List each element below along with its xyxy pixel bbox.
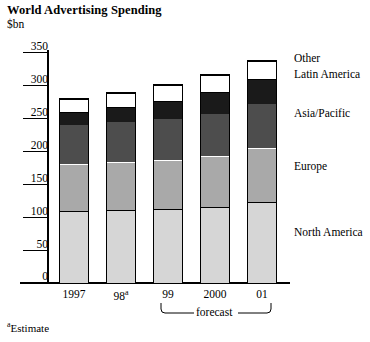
segment-latin-america xyxy=(60,112,88,125)
x-label-99: 99 xyxy=(162,288,174,300)
y-tick-200: 200 xyxy=(12,140,48,152)
y-tick-100: 100 xyxy=(12,206,48,218)
y-tick-50: 50 xyxy=(12,239,48,251)
y-tick-300: 300 xyxy=(12,74,48,86)
y-tick-label: 250 xyxy=(31,106,48,118)
legend-item-europe: Europe xyxy=(294,160,327,172)
y-tick-rule xyxy=(23,52,49,53)
footnote-text: Estimate xyxy=(11,322,50,334)
segment-latin-america xyxy=(201,92,229,114)
x-label-text: 1997 xyxy=(63,288,86,300)
plot-area xyxy=(47,50,290,284)
bar-99[interactable] xyxy=(153,84,183,284)
segment-asia-pacific xyxy=(154,119,182,160)
segment-latin-america xyxy=(154,101,182,119)
legend-item-latin-america: Latin America xyxy=(294,68,360,80)
y-tick-350: 350 xyxy=(12,41,48,53)
chart-subtitle: $bn xyxy=(7,18,24,30)
legend-item-other: Other xyxy=(294,52,320,64)
y-tick-rule xyxy=(23,282,49,283)
chart-title: World Advertising Spending xyxy=(7,3,162,18)
segment-asia-pacific xyxy=(107,122,135,162)
segment-latin-america xyxy=(248,79,276,104)
segment-other xyxy=(60,99,88,112)
x-label-01: 01 xyxy=(256,288,268,300)
y-tick-label: 300 xyxy=(31,73,48,85)
y-tick-label: 150 xyxy=(31,172,48,184)
legend-item-north-america: North America xyxy=(294,226,363,238)
y-tick-rule xyxy=(23,250,49,251)
segment-north-america xyxy=(248,202,276,283)
segment-asia-pacific xyxy=(248,104,276,148)
bar-1997[interactable] xyxy=(59,98,89,284)
footnote: aEstimate xyxy=(7,320,49,334)
x-label-2000: 2000 xyxy=(204,288,227,300)
segment-asia-pacific xyxy=(60,125,88,164)
segment-north-america xyxy=(107,210,135,283)
segment-latin-america xyxy=(107,107,135,122)
x-label-1997: 1997 xyxy=(63,288,86,300)
y-tick-label: 350 xyxy=(31,40,48,52)
segment-asia-pacific xyxy=(201,114,229,156)
segment-other xyxy=(107,93,135,107)
legend-item-asia-pacific: Asia/Pacific xyxy=(294,107,350,119)
y-tick-250: 250 xyxy=(12,107,48,119)
x-label-text: 01 xyxy=(256,288,268,300)
segment-other xyxy=(248,61,276,79)
y-tick-label: 100 xyxy=(31,205,48,217)
segment-europe xyxy=(60,164,88,211)
bar-98[interactable] xyxy=(106,92,136,284)
y-tick-rule xyxy=(23,118,49,119)
y-tick-150: 150 xyxy=(12,173,48,185)
segment-europe xyxy=(154,160,182,209)
y-tick-rule xyxy=(23,217,49,218)
bar-2000[interactable] xyxy=(200,74,230,284)
segment-north-america xyxy=(60,211,88,283)
y-tick-rule xyxy=(23,85,49,86)
estimate-marker: a xyxy=(125,288,129,297)
segment-other xyxy=(154,85,182,101)
y-tick-rule xyxy=(23,151,49,152)
y-tick-0: 0 xyxy=(12,271,48,283)
x-label-98: 98a xyxy=(113,288,128,302)
segment-europe xyxy=(201,156,229,207)
x-label-text: 99 xyxy=(162,288,174,300)
segment-europe xyxy=(107,162,135,210)
segment-north-america xyxy=(154,209,182,283)
bar-01-legend-key[interactable] xyxy=(247,60,277,284)
x-label-text: 98 xyxy=(113,290,125,302)
chart-container: World Advertising Spending $bn 350 300 2… xyxy=(0,0,370,342)
segment-other xyxy=(201,75,229,92)
x-label-text: 2000 xyxy=(204,288,227,300)
y-tick-label: 200 xyxy=(31,139,48,151)
forecast-label: forecast xyxy=(196,306,232,318)
y-tick-rule xyxy=(23,184,49,185)
segment-europe xyxy=(248,148,276,202)
segment-north-america xyxy=(201,207,229,283)
